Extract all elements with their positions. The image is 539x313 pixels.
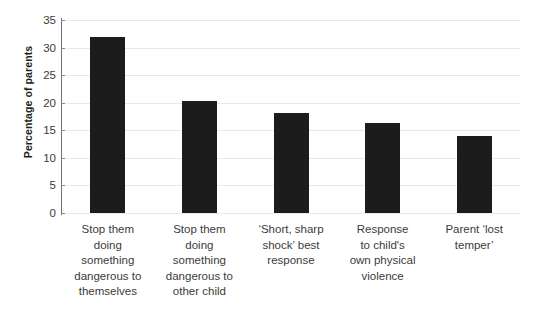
gridline: [62, 213, 520, 214]
y-axis-tick-mark: [61, 103, 65, 104]
x-axis-category-labels: Stop themdoingsomethingdangerous tothems…: [62, 222, 520, 310]
y-axis-tick-label: 20: [14, 97, 56, 109]
bar: [274, 113, 309, 213]
y-axis-tick-mark: [61, 185, 65, 186]
category-label-line: response: [245, 253, 337, 269]
bar: [457, 136, 492, 213]
y-axis-tick-label: 10: [14, 152, 56, 164]
category-label-line: something: [153, 253, 245, 269]
category-label-line: Parent ‘lost: [428, 222, 520, 238]
x-axis-category-label: Parent ‘losttemper’: [428, 222, 520, 253]
category-label-line: Stop them: [62, 222, 154, 238]
y-axis-tick-mark: [61, 158, 65, 159]
y-axis-tick-label: 30: [14, 42, 56, 54]
bar: [365, 123, 400, 213]
y-axis-tick-label: 35: [14, 14, 56, 26]
category-label-line: violence: [337, 269, 429, 285]
y-axis-tick-mark: [61, 20, 65, 21]
category-label-line: something: [62, 253, 154, 269]
category-label-line: doing: [62, 238, 154, 254]
y-axis-tick-label: 0: [14, 207, 56, 219]
category-label-line: dangerous to: [62, 269, 154, 285]
gridline: [62, 48, 520, 49]
y-axis-tick-label: 25: [14, 69, 56, 81]
x-axis-category-label: Responseto child'sown physicalviolence: [337, 222, 429, 284]
category-label-line: own physical: [337, 253, 429, 269]
y-axis-tick-mark: [61, 48, 65, 49]
category-label-line: Stop them: [153, 222, 245, 238]
plot-area: [62, 20, 520, 213]
category-label-line: ‘Short, sharp: [245, 222, 337, 238]
y-axis-tick-labels: 05101520253035: [10, 20, 56, 213]
x-axis-category-label: Stop themdoingsomethingdangerous toother…: [153, 222, 245, 300]
category-label-line: doing: [153, 238, 245, 254]
gridline: [62, 103, 520, 104]
category-label-line: to child's: [337, 238, 429, 254]
y-axis-tick-mark: [61, 75, 65, 76]
gridline: [62, 20, 520, 21]
category-label-line: shock’ best: [245, 238, 337, 254]
y-axis-tick-label: 5: [14, 179, 56, 191]
category-label-line: temper’: [428, 238, 520, 254]
x-axis-category-label: ‘Short, sharpshock’ bestresponse: [245, 222, 337, 269]
category-label-line: Response: [337, 222, 429, 238]
y-axis-tick-mark: [61, 213, 65, 214]
category-label-line: dangerous to: [153, 269, 245, 285]
category-label-line: other child: [153, 284, 245, 300]
x-axis-category-label: Stop themdoingsomethingdangerous tothems…: [62, 222, 154, 300]
bar: [90, 37, 125, 213]
y-axis-tick-mark: [61, 130, 65, 131]
category-label-line: themselves: [62, 284, 154, 300]
bar: [182, 101, 217, 213]
y-axis-tick-label: 15: [14, 124, 56, 136]
gridline: [62, 75, 520, 76]
bar-chart: Percentage of parents 05101520253035 Sto…: [0, 0, 539, 313]
